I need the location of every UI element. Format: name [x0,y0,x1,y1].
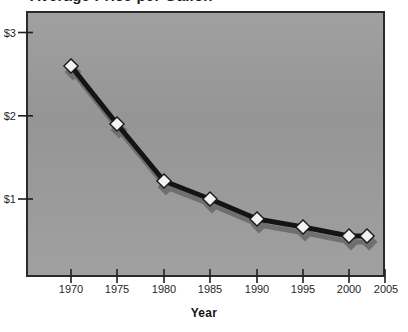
x-tick-label-2005: 2005 [374,283,398,295]
x-tick-marks [71,269,385,283]
y-tick-marks [18,33,33,200]
x-axis-title: Year [0,306,408,320]
series-markers-price [64,59,374,243]
y-tick-label-3: $3 [0,27,16,39]
x-tick-label-1970: 1970 [59,283,83,295]
x-tick-label-2000: 2000 [337,283,361,295]
chart-figure: $1 $2 $3 1970 1975 1980 1985 1990 1995 2… [0,0,408,332]
series-shadow [65,64,377,250]
x-tick-label-1995: 1995 [291,283,315,295]
x-tick-label-1990: 1990 [245,283,269,295]
x-tick-label-1985: 1985 [198,283,222,295]
y-tick-label-2: $2 [0,110,16,122]
x-tick-label-1980: 1980 [152,283,176,295]
y-tick-label-1: $1 [0,193,16,205]
x-tick-label-1975: 1975 [105,283,129,295]
